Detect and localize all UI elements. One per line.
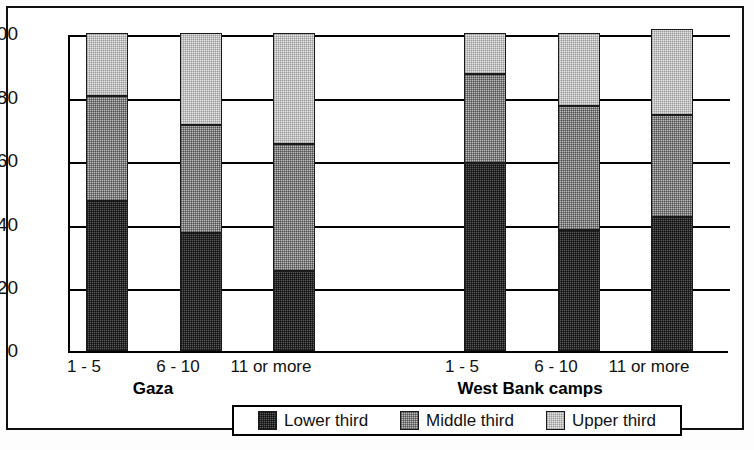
legend-label-lower-third: Lower third xyxy=(284,412,368,429)
group-label-west-bank-camps: West Bank camps xyxy=(410,380,650,397)
y-tick-label-40: 40 xyxy=(0,215,18,234)
bar-west-bank-6-10[interactable] xyxy=(558,33,600,351)
segment-upper-third[interactable] xyxy=(558,33,600,106)
gridline-80 xyxy=(70,99,730,101)
group-label-gaza: Gaza xyxy=(33,380,273,397)
legend-label-upper-third: Upper third xyxy=(572,412,656,429)
segment-lower-third[interactable] xyxy=(464,163,506,351)
segment-middle-third[interactable] xyxy=(651,115,693,217)
segment-upper-third[interactable] xyxy=(651,29,693,115)
y-tick-label-60: 60 xyxy=(0,151,18,170)
y-tick-label-20: 20 xyxy=(0,278,18,297)
x-category-label-west-bank-11-or-more: 11 or more xyxy=(584,358,714,375)
segment-middle-third[interactable] xyxy=(86,96,128,201)
segment-middle-third[interactable] xyxy=(558,106,600,230)
segment-upper-third[interactable] xyxy=(86,33,128,96)
bar-west-bank-11-or-more[interactable] xyxy=(651,29,693,351)
bar-gaza-1-5[interactable] xyxy=(86,33,128,351)
segment-middle-third[interactable] xyxy=(464,74,506,163)
segment-lower-third[interactable] xyxy=(558,230,600,351)
segment-upper-third[interactable] xyxy=(180,33,222,125)
segment-middle-third[interactable] xyxy=(180,125,222,233)
segment-lower-third[interactable] xyxy=(180,233,222,351)
gridline-40 xyxy=(70,226,730,228)
gridline-20 xyxy=(70,289,730,291)
segment-lower-third[interactable] xyxy=(86,201,128,351)
bar-gaza-11-or-more[interactable] xyxy=(273,33,315,351)
bar-west-bank-1-5[interactable] xyxy=(464,33,506,351)
legend-label-middle-third: Middle third xyxy=(426,412,514,429)
bar-gaza-6-10[interactable] xyxy=(180,33,222,351)
segment-middle-third[interactable] xyxy=(273,144,315,271)
y-tick-label-100: 100 xyxy=(0,24,18,43)
legend-item-middle-third[interactable]: Middle third xyxy=(400,411,514,430)
y-tick-label-0: 0 xyxy=(0,341,18,360)
x-category-label-gaza-11-or-more: 11 or more xyxy=(206,358,336,375)
gridline-100 xyxy=(70,35,730,37)
segment-upper-third[interactable] xyxy=(464,33,506,74)
legend-item-upper-third[interactable]: Upper third xyxy=(546,411,656,430)
upper-third-swatch-icon xyxy=(546,411,565,430)
y-tick-label-80: 80 xyxy=(0,88,18,107)
segment-lower-third[interactable] xyxy=(651,217,693,351)
chart-frame: 100 80 60 40 20 0 xyxy=(6,6,744,430)
gridline-60 xyxy=(70,162,730,164)
plot-area xyxy=(68,35,728,353)
segment-upper-third[interactable] xyxy=(273,33,315,144)
segment-lower-third[interactable] xyxy=(273,271,315,351)
legend-item-lower-third[interactable]: Lower third xyxy=(258,411,368,430)
lower-third-swatch-icon xyxy=(258,411,277,430)
middle-third-swatch-icon xyxy=(400,411,419,430)
legend: Lower third Middle third Upper third xyxy=(232,405,682,436)
figure: 100 80 60 40 20 0 xyxy=(0,0,754,450)
